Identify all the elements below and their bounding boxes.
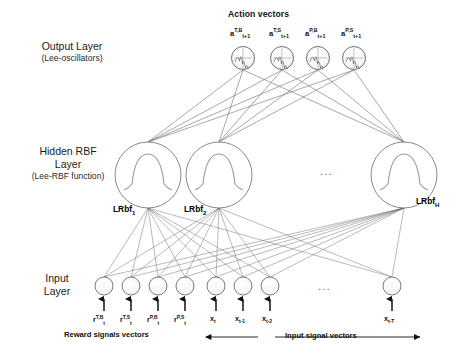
input-node-label-7: xt-2 (262, 314, 272, 324)
hidden-layer-sublabel: (Lee-RBF function) (8, 171, 128, 182)
hidden-node (186, 142, 252, 208)
input-layer-label: Input Layer (14, 272, 100, 298)
reward-signals-caption: Reward signals vectors (64, 330, 149, 339)
hidden-layer-label: Hidden RBF Layer (Lee-RBF function) (8, 145, 128, 182)
hidden-layer-name2: Layer (8, 158, 128, 171)
output-node (232, 47, 255, 70)
input-layer-name: Input (14, 272, 100, 285)
hidden-layer-name: Hidden RBF (8, 145, 128, 158)
output-layer-nodes (232, 47, 366, 70)
hidden-node-label-1: LRbf1 (113, 204, 135, 216)
hidden-to-output-edges (148, 70, 404, 142)
output-node-label-2: aT,St+1 (269, 27, 289, 39)
input-node-label-6: xt-1 (235, 314, 245, 324)
hidden-layer-nodes (115, 142, 437, 208)
input-node-label-5: xt (210, 314, 216, 324)
hidden-node-label-2: LRbf2 (184, 204, 206, 216)
hidden-layer-ellipsis: ... (320, 166, 333, 177)
output-node (271, 47, 294, 70)
output-node-label-4: aP,St+1 (341, 27, 361, 39)
input-layer-ellipsis: ... (318, 281, 331, 292)
input-to-hidden-edges (104, 208, 404, 277)
output-layer-sublabel: (Lee-oscillators) (12, 53, 132, 64)
input-node-label-3: rP,Bt (147, 314, 159, 326)
input-node-label-8: xt-T (384, 314, 394, 324)
action-vectors-title: Action vectors (228, 9, 289, 19)
input-arrows (104, 299, 392, 311)
input-node-label-2: rT,St (120, 314, 132, 326)
output-node-label-3: aP,Bt+1 (305, 27, 325, 39)
input-signals-caption: Input signal vectors (285, 331, 357, 340)
input-node-label-1: rT,Bt (93, 314, 105, 326)
output-layer-label: Output Layer (Lee-oscillators) (12, 40, 132, 64)
input-node-label-4: rP,St (174, 314, 186, 326)
output-node (343, 47, 366, 70)
figure-canvas: Action vectors aT,Bt+1 aT,St+1 aP,Bt+1 a… (0, 0, 461, 353)
input-layer-name2: Layer (14, 285, 100, 298)
output-node-label-1: aT,Bt+1 (230, 27, 250, 39)
input-layer-nodes (95, 277, 401, 295)
output-layer-name: Output Layer (12, 40, 132, 53)
hidden-node-label-3: LRbfH (416, 196, 439, 208)
output-node (307, 47, 330, 70)
